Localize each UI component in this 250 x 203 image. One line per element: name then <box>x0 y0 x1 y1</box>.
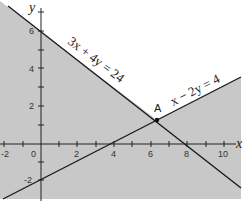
shaded-region <box>0 7 241 199</box>
x-tick-label: 2 <box>74 149 79 159</box>
shaded-region-topleft <box>0 1 8 7</box>
y-tick-label: 6 <box>29 26 34 36</box>
y-tick-label: 2 <box>29 101 34 111</box>
inequality-graph: A 3x + 4y = 24 x − 2y = 4 x y -2 0 2 4 6… <box>0 0 250 203</box>
y-tick-label: -2 <box>24 175 32 185</box>
point-a-label: A <box>154 102 162 114</box>
x-tick-label: 6 <box>148 149 153 159</box>
y-axis-label: y <box>27 0 36 15</box>
x-tick-label: 8 <box>184 149 189 159</box>
x-tick-label: 4 <box>111 149 116 159</box>
x-tick-label: 10 <box>218 149 228 159</box>
y-tick-label: 4 <box>29 64 34 74</box>
x-tick-label: 0 <box>31 149 36 159</box>
x-tick-label: -2 <box>1 149 9 159</box>
point-a-marker <box>155 118 159 122</box>
x-axis-label: x <box>235 136 243 151</box>
